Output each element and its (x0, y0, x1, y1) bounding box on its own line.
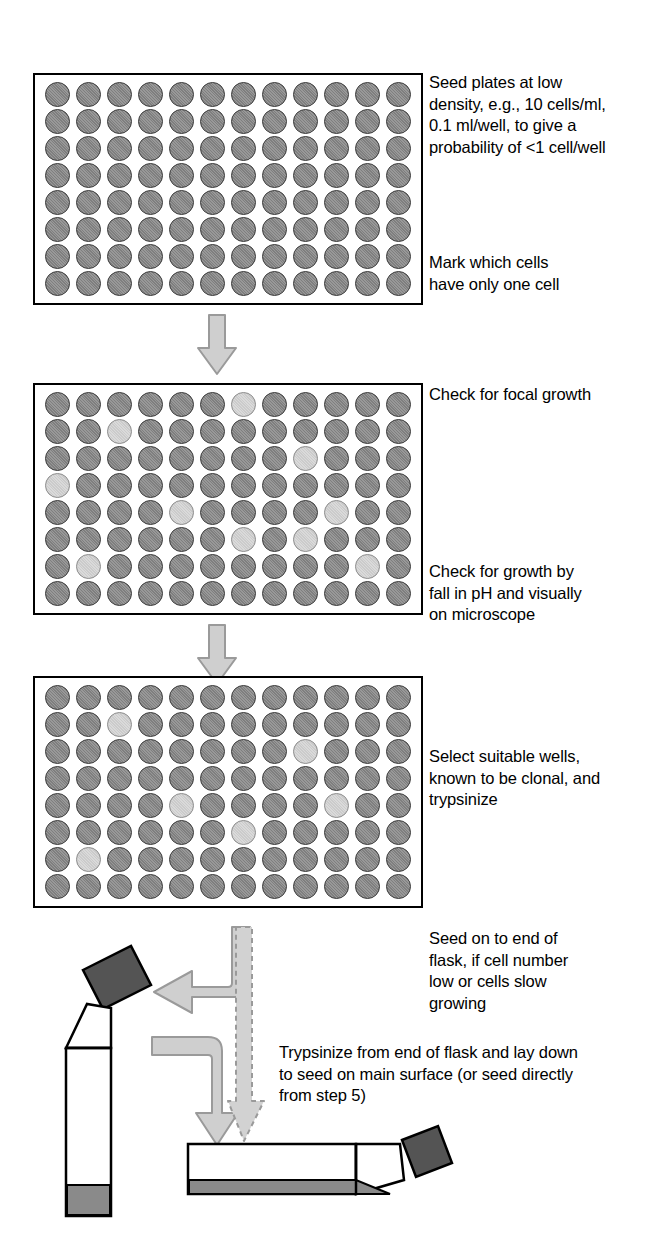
well (262, 163, 287, 188)
note-check-growth-ph: Check for growth by fall in pH and visua… (429, 561, 661, 626)
well (231, 419, 256, 444)
well (107, 82, 132, 107)
well (231, 190, 256, 215)
well (138, 163, 163, 188)
note-check-focal-growth: Check for focal growth (429, 384, 661, 406)
well (293, 473, 318, 498)
well (138, 766, 163, 791)
well (169, 685, 194, 710)
well (76, 820, 101, 845)
well (293, 793, 318, 818)
well-plate-2 (33, 383, 423, 615)
note-select-wells: Select suitable wells, known to be clona… (429, 746, 661, 811)
well (324, 581, 349, 606)
well (262, 793, 287, 818)
well (200, 847, 225, 872)
well (76, 109, 101, 134)
well (355, 793, 380, 818)
well (355, 271, 380, 296)
well (231, 109, 256, 134)
well (386, 581, 411, 606)
well (200, 419, 225, 444)
well (138, 820, 163, 845)
well (231, 527, 256, 552)
well (107, 766, 132, 791)
well (262, 500, 287, 525)
well (355, 847, 380, 872)
well (107, 712, 132, 737)
well (76, 244, 101, 269)
well (231, 82, 256, 107)
well (293, 419, 318, 444)
note-trypsinize-lay-down: Trypsinize from end of flask and lay dow… (279, 1042, 665, 1107)
well (138, 500, 163, 525)
well (107, 419, 132, 444)
well (200, 271, 225, 296)
flask-cap-horizontal (402, 1126, 452, 1177)
well (231, 473, 256, 498)
arrow-direct-seed (226, 925, 270, 1145)
well (231, 446, 256, 471)
well (76, 473, 101, 498)
well (169, 163, 194, 188)
well (76, 217, 101, 242)
well (386, 190, 411, 215)
well (324, 163, 349, 188)
well (107, 473, 132, 498)
well (107, 685, 132, 710)
well (45, 874, 70, 899)
well (45, 136, 70, 161)
well (231, 793, 256, 818)
well (262, 527, 287, 552)
well (293, 712, 318, 737)
well (262, 581, 287, 606)
well (231, 392, 256, 417)
well (138, 271, 163, 296)
well (169, 527, 194, 552)
note-seed-end-of-flask: Seed on to end of flask, if cell number … (429, 928, 665, 1014)
well (169, 446, 194, 471)
well (231, 685, 256, 710)
well (262, 766, 287, 791)
well (169, 554, 194, 579)
well (76, 190, 101, 215)
well (262, 419, 287, 444)
well (169, 392, 194, 417)
well (262, 190, 287, 215)
well (169, 793, 194, 818)
well (386, 766, 411, 791)
well (76, 685, 101, 710)
well (324, 554, 349, 579)
well (76, 793, 101, 818)
well (386, 271, 411, 296)
flask-horizontal (180, 1118, 500, 1238)
well (138, 581, 163, 606)
flask-medium-horizontal (189, 1180, 390, 1194)
well (293, 685, 318, 710)
well (76, 419, 101, 444)
well (355, 244, 380, 269)
well (324, 419, 349, 444)
well (324, 82, 349, 107)
well (324, 109, 349, 134)
well (324, 712, 349, 737)
well (169, 473, 194, 498)
well (138, 685, 163, 710)
well (76, 874, 101, 899)
well (169, 766, 194, 791)
note-seed-plates: Seed plates at low density, e.g., 10 cel… (429, 72, 661, 158)
well (169, 217, 194, 242)
well (324, 766, 349, 791)
well (45, 554, 70, 579)
well (262, 874, 287, 899)
well (76, 500, 101, 525)
well (293, 190, 318, 215)
well (355, 500, 380, 525)
well (293, 581, 318, 606)
well (169, 847, 194, 872)
well (293, 500, 318, 525)
well (262, 712, 287, 737)
well (324, 392, 349, 417)
well (355, 163, 380, 188)
well (200, 109, 225, 134)
